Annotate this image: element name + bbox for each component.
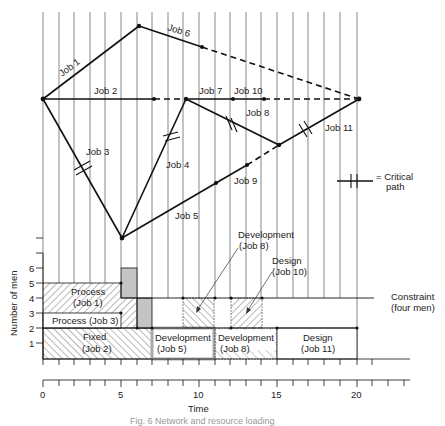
bar-excess-1 [121, 268, 137, 298]
figure-caption: Fig. 6 Network and resource loading [130, 416, 275, 426]
job10-label: Job 10 [234, 85, 263, 96]
node-start [41, 97, 46, 102]
network [43, 26, 359, 238]
development-job8-label-2: (Job 8) [220, 343, 250, 354]
critical-path-marks [74, 116, 312, 175]
y-tick-6: 6 [29, 263, 34, 274]
job8-label: Job 8 [246, 107, 269, 118]
job9-slack [247, 145, 279, 165]
job5-label: Job 5 [175, 210, 198, 221]
node [277, 143, 281, 147]
node-end [357, 97, 362, 102]
development-job8-label: Development [218, 332, 274, 343]
x-axis-label: Time [188, 403, 209, 414]
node [200, 45, 204, 49]
job2-label: Job 2 [94, 85, 117, 96]
design-job11-label: Design [303, 332, 333, 343]
job11-label: Job 11 [325, 122, 353, 133]
job1-label: Job 1 [57, 56, 82, 79]
fixed-job2-label: Fixed [83, 331, 106, 342]
job9-label: Job 9 [234, 175, 257, 186]
job5-arrow [122, 183, 216, 238]
node [214, 181, 218, 185]
node [245, 163, 249, 167]
process-job1-label-2: (Job 1) [73, 297, 103, 308]
constraint-label-2: (four men) [391, 302, 435, 313]
node [152, 97, 156, 101]
job4-label: Job 4 [166, 159, 189, 170]
x-tick-5: 5 [118, 389, 123, 400]
x-tick-20: 20 [351, 389, 362, 400]
node [262, 97, 266, 101]
y-tick-5: 5 [29, 278, 34, 289]
y-tick-4: 4 [29, 293, 34, 304]
bar-excess-2 [137, 298, 152, 328]
x-tick-15: 15 [271, 389, 282, 400]
x-tick-10: 10 [193, 389, 204, 400]
constraint-label: Constraint [391, 291, 435, 302]
development-job8-callout-2: (Job 8) [239, 240, 269, 251]
node [120, 236, 125, 241]
node [137, 24, 141, 28]
y-tick-3: 3 [29, 308, 34, 319]
job6-slack [202, 47, 359, 99]
y-axis [36, 238, 43, 359]
critical-path-legend: = Critical path [337, 171, 413, 192]
development-job5-label: Development [155, 332, 211, 343]
resource-loading-chart: Process (Job 1) Process (Job 3) Fixed (J… [43, 229, 435, 359]
legend-path: path [386, 181, 405, 192]
y-tick-2: 2 [29, 323, 34, 334]
x-axis [43, 380, 410, 387]
job3-label: Job 3 [86, 146, 109, 157]
design-job10-callout: Design [272, 255, 302, 266]
development-job8-callout: Development [238, 229, 294, 240]
node [231, 97, 235, 101]
network-resource-diagram: Job 1 Job 6 Job 2 Job 7 Job 10 Job 8 Job… [0, 0, 445, 426]
y-axis-label: Number of men [8, 271, 19, 336]
job3-arrow [43, 99, 122, 238]
bar-process-job1-ext [121, 298, 137, 328]
design-job10-callout-2: (Job 10) [272, 266, 307, 277]
x-tick-0: 0 [40, 389, 45, 400]
development-job5-label-2: (Job 5) [157, 343, 187, 354]
design-job11-label-2: (Job 11) [301, 343, 335, 354]
bar-development-job8-upper [183, 298, 214, 328]
fixed-job2-label-2: (Job 2) [82, 343, 112, 354]
y-tick-1: 1 [29, 338, 34, 349]
process-job1-label: Process [71, 286, 106, 297]
network-nodes [41, 24, 362, 241]
job1-arrow [43, 26, 139, 99]
node [184, 97, 188, 101]
gantt-baseline [43, 359, 410, 365]
process-job3-label: Process (Job 3) [52, 315, 119, 326]
job7-label: Job 7 [199, 85, 222, 96]
